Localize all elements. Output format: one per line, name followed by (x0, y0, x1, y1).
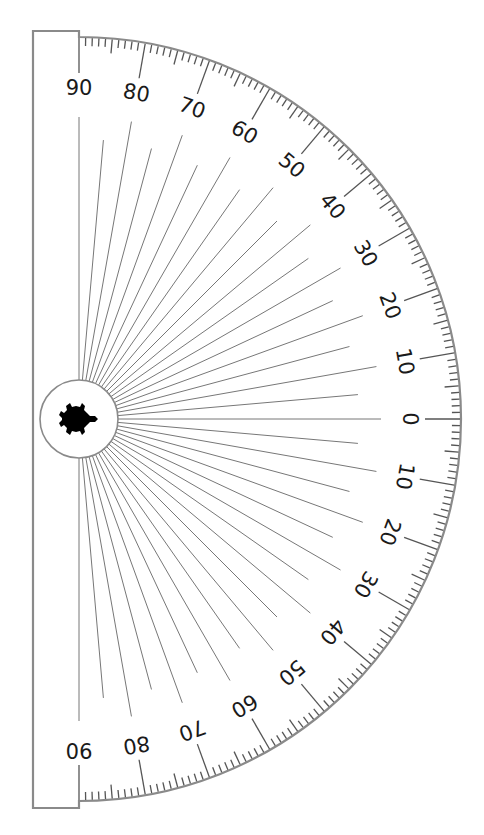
tick-mark (105, 39, 106, 47)
degree-label-upper: 10 (391, 346, 419, 376)
tick-mark (451, 392, 459, 393)
tick-mark (450, 458, 458, 459)
tick-mark (450, 379, 458, 380)
tick-mark (118, 790, 119, 798)
degree-label-lower: 90 (66, 738, 93, 762)
degree-label-upper: 80 (121, 79, 151, 107)
degree-label-upper: 90 (66, 76, 93, 100)
tick-mark (118, 40, 119, 48)
protractor: 9080706050403020100102030405060708090 (0, 0, 484, 835)
tick-mark (105, 791, 106, 799)
degree-label-lower: 10 (391, 461, 419, 491)
degree-label-upper: 0 (398, 412, 422, 425)
degree-label-lower: 80 (121, 731, 151, 759)
tick-mark (451, 445, 459, 446)
